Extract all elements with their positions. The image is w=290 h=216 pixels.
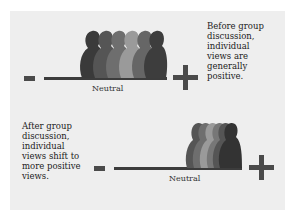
bottom-plus-sign bbox=[249, 155, 274, 180]
top-neutral-label: Neutral bbox=[92, 84, 123, 93]
cropped-title-strip bbox=[0, 0, 290, 8]
top-people-figures-icon bbox=[78, 28, 168, 78]
top-description: Before group discussion, individual view… bbox=[207, 21, 264, 81]
top-minus-sign bbox=[24, 76, 35, 81]
top-plus-sign bbox=[173, 65, 198, 90]
bottom-description: After group discussion, individual views… bbox=[22, 121, 81, 181]
bottom-people-figures-icon bbox=[185, 120, 243, 168]
bottom-minus-sign bbox=[94, 166, 105, 171]
bottom-neutral-label: Neutral bbox=[169, 174, 200, 183]
